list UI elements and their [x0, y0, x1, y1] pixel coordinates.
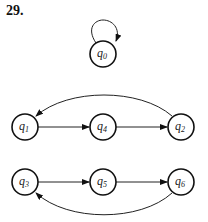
node-q1: q1: [12, 114, 38, 140]
node-q0: q0: [90, 41, 116, 67]
node-q5: q5: [90, 169, 116, 195]
edge-q6-q3: [36, 193, 172, 215]
state-diagram: q0 q1 q4 q2 q3 q5 q6: [0, 0, 208, 222]
node-q4: q4: [90, 114, 116, 140]
edge-q2-q1: [36, 95, 172, 116]
node-q3: q3: [12, 169, 38, 195]
node-q2: q2: [168, 114, 194, 140]
node-q6: q6: [168, 169, 194, 195]
edge-q0-q0: [92, 20, 118, 43]
